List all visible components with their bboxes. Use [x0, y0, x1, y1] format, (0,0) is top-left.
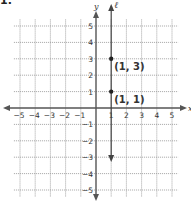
y-tick-label: −2 — [82, 137, 93, 146]
x-axis-left-arrow-icon — [3, 105, 10, 111]
y-tick-label: 5 — [88, 22, 93, 31]
x-tick-label: 4 — [154, 111, 159, 120]
y-tick-label: 4 — [88, 38, 93, 47]
line-l-label: ℓ — [114, 0, 118, 10]
line-l-down-arrow-icon — [108, 155, 114, 162]
x-tick-label: −1 — [74, 111, 85, 120]
x-tick-label: −2 — [59, 111, 70, 120]
x-tick-label: 5 — [170, 111, 175, 120]
y-axis-down-arrow-icon — [93, 194, 99, 201]
y-tick-label: −3 — [82, 153, 93, 162]
x-tick-label: −5 — [13, 111, 24, 120]
x-tick-label: −4 — [29, 111, 40, 120]
data-point — [109, 57, 113, 61]
x-tick-label: 2 — [124, 111, 129, 120]
point-label: (1, 3) — [114, 61, 144, 72]
x-tick-label: −3 — [44, 111, 55, 120]
y-tick-label: −4 — [82, 170, 93, 179]
x-axis-label: x — [188, 104, 191, 113]
y-tick-label: 2 — [88, 71, 93, 80]
y-tick-label: −5 — [82, 186, 93, 195]
y-axis-label: y — [93, 2, 99, 11]
y-axis-up-arrow-icon — [93, 11, 99, 18]
data-point — [109, 89, 113, 93]
y-tick-label: 3 — [88, 55, 93, 64]
x-axis-right-arrow-icon — [180, 105, 187, 111]
point-label: (1, 1) — [114, 94, 144, 105]
y-tick-label: −1 — [82, 120, 93, 129]
y-tick-label: 1 — [88, 88, 93, 97]
coordinate-plane: xy−5−4−3−2−11234554321−1−2−3−4−5ℓ(1, 3)(… — [0, 0, 191, 203]
x-tick-label: 3 — [139, 111, 144, 120]
